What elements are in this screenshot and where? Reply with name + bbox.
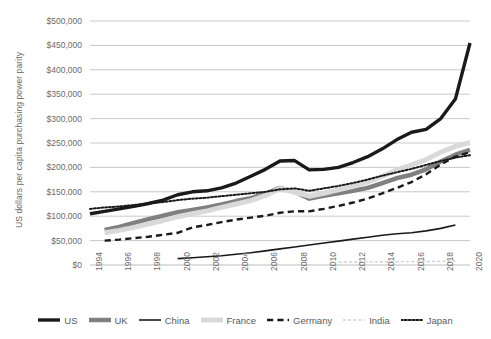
legend-label: US	[64, 315, 77, 326]
legend-swatch-china	[139, 315, 161, 325]
legend-label: Japan	[427, 315, 453, 326]
legend-label: UK	[115, 315, 128, 326]
legend-item-us[interactable]: US	[38, 315, 77, 326]
legend-swatch-uk	[89, 315, 111, 325]
legend-item-germany[interactable]: Germany	[267, 315, 332, 326]
legend-label: India	[369, 315, 390, 326]
series-line-india	[338, 261, 455, 262]
legend-swatch-us	[38, 315, 60, 325]
legend-item-france[interactable]: France	[201, 315, 257, 326]
legend-swatch-japan	[401, 315, 423, 325]
legend-swatch-india	[343, 315, 365, 325]
legend-swatch-france	[201, 315, 223, 325]
series-line-china	[178, 225, 456, 259]
legend-label: China	[165, 315, 190, 326]
chart-container: US dollars per capita purchasing power p…	[0, 0, 491, 339]
legend-swatch-germany	[267, 315, 289, 325]
legend-item-uk[interactable]: UK	[89, 315, 128, 326]
legend-label: France	[227, 315, 257, 326]
plot-area	[0, 0, 491, 339]
chart-legend: USUKChinaFranceGermanyIndiaJapan	[0, 308, 491, 332]
legend-item-india[interactable]: India	[343, 315, 390, 326]
legend-label: Germany	[293, 315, 332, 326]
legend-item-japan[interactable]: Japan	[401, 315, 453, 326]
legend-item-china[interactable]: China	[139, 315, 190, 326]
